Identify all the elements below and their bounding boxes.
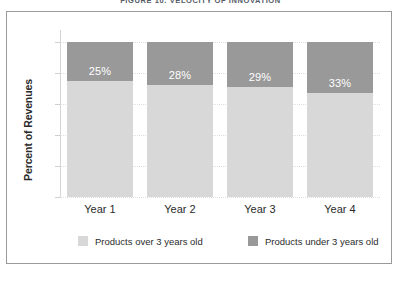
y-axis-title: Percent of Revenues: [22, 60, 36, 200]
chart-legend: Products over 3 years oldProducts under …: [60, 234, 390, 250]
y-axis-tick: [55, 197, 60, 198]
bar-year-4[interactable]: 33%: [307, 42, 373, 197]
figure-title: FIGURE 10. VELOCITY OF INNOVATION: [0, 0, 401, 5]
bar-value-label: 25%: [67, 65, 133, 77]
bar-value-label: 28%: [147, 69, 213, 81]
bar-year-1[interactable]: 25%: [67, 42, 133, 197]
x-axis-label-year-1: Year 1: [67, 203, 133, 215]
bar-segment-under-3-years[interactable]: 25%: [67, 42, 133, 81]
legend-item-2[interactable]: Products under 3 years old: [248, 234, 379, 248]
legend-label: Products over 3 years old: [95, 236, 203, 247]
bar-segment-over-3-years[interactable]: [307, 93, 373, 197]
bar-year-2[interactable]: 28%: [147, 42, 213, 197]
bar-segment-under-3-years[interactable]: 28%: [147, 42, 213, 85]
gridline: [60, 197, 380, 199]
x-axis-label-year-2: Year 2: [147, 203, 213, 215]
legend-swatch-dark: [248, 236, 258, 246]
bar-segment-under-3-years[interactable]: 29%: [227, 42, 293, 87]
plot-area: 25%28%29%33%: [60, 30, 380, 197]
bar-year-3[interactable]: 29%: [227, 42, 293, 197]
x-axis-label-year-4: Year 4: [307, 203, 373, 215]
bar-segment-over-3-years[interactable]: [147, 85, 213, 197]
bar-segment-over-3-years[interactable]: [67, 81, 133, 197]
bar-segment-over-3-years[interactable]: [227, 87, 293, 197]
x-axis-label-year-3: Year 3: [227, 203, 293, 215]
bar-value-label: 29%: [227, 71, 293, 83]
bar-segment-under-3-years[interactable]: 33%: [307, 42, 373, 93]
legend-swatch-light: [78, 236, 88, 246]
legend-label: Products under 3 years old: [265, 236, 379, 247]
bar-value-label: 33%: [307, 77, 373, 89]
legend-item-1[interactable]: Products over 3 years old: [78, 234, 203, 248]
